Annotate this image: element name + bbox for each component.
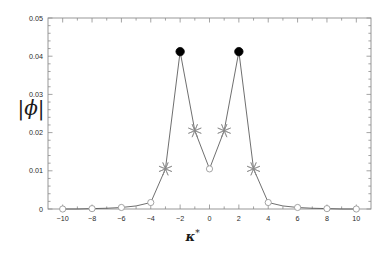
svg-text:4: 4 [266,214,270,223]
svg-text:0: 0 [208,214,212,223]
y-axis-label: |ϕ| [14,98,48,118]
x-axis-label: κ* [0,228,385,244]
svg-text:0.02: 0.02 [29,128,43,137]
svg-text:10: 10 [352,214,360,223]
data-markers [60,47,360,212]
plot-canvas: −10−8−6−4−2024681000.010.020.030.040.05 [0,0,385,256]
svg-text:0.05: 0.05 [29,14,43,23]
axes-frame [48,18,371,209]
svg-text:0.01: 0.01 [29,166,43,175]
svg-text:8: 8 [325,214,329,223]
svg-text:−10: −10 [57,214,69,223]
axis-ticks [48,18,371,209]
data-series-line [63,52,357,209]
axis-tick-labels: −10−8−6−4−2024681000.010.020.030.040.05 [29,14,360,223]
svg-text:0.04: 0.04 [29,52,43,61]
x-axis-label-superscript: * [195,228,200,238]
x-axis-label-text: κ [185,229,195,244]
svg-text:6: 6 [296,214,300,223]
chart-figure: −10−8−6−4−2024681000.010.020.030.040.05 … [0,0,385,256]
svg-text:−4: −4 [147,214,155,223]
svg-text:−6: −6 [117,214,125,223]
svg-text:−8: −8 [88,214,96,223]
svg-text:−2: −2 [176,214,184,223]
svg-text:2: 2 [237,214,241,223]
svg-text:0: 0 [39,205,43,214]
